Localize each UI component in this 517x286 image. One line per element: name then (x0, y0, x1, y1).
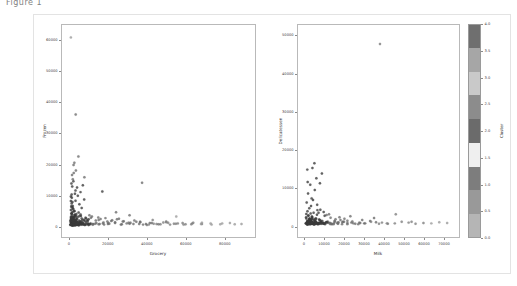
y-tick-mark (59, 227, 61, 228)
x-tick-mark (384, 238, 385, 240)
scatter-plot-left[interactable]: 020000400006000080000 010000200003000040… (61, 24, 256, 238)
figure-canvas: 020000400006000080000 010000200003000040… (33, 14, 511, 274)
y-tick-mark (59, 196, 61, 197)
colorbar-tick-label: 0.5 (485, 209, 491, 213)
x-tick-label: 20000 (338, 242, 349, 246)
x-tick-mark (404, 238, 405, 240)
y-tick-mark (59, 133, 61, 134)
data-points-right (298, 25, 459, 237)
y-tick-mark (59, 102, 61, 103)
colorbar-title: Cluster (499, 124, 504, 138)
colorbar-tick-label: 4.0 (485, 22, 491, 26)
y-tick-mark (295, 150, 297, 151)
colorbar-tick-mark (481, 104, 483, 105)
y-axis-title-right: Delicatessen (278, 118, 283, 145)
x-tick-label: 10000 (318, 242, 329, 246)
colorbar-tick-label: 3.0 (485, 76, 491, 80)
y-axis-title-left: Frozen (42, 124, 47, 138)
scatter-plot-right[interactable]: 010000200003000040000500006000070000 010… (297, 24, 460, 238)
page-title: Figure 1 (6, 0, 42, 7)
x-tick-label: 40000 (378, 242, 389, 246)
x-tick-mark (304, 238, 305, 240)
colorbar-tick-mark (481, 24, 483, 25)
x-tick-label: 40000 (141, 242, 152, 246)
x-tick-label: 60000 (180, 242, 191, 246)
x-tick-label: 70000 (438, 242, 449, 246)
colorbar-tick-mark (481, 185, 483, 186)
y-tick-label: 50000 (46, 69, 57, 73)
x-tick-mark (147, 238, 148, 240)
x-tick-mark (69, 238, 70, 240)
x-tick-label: 0 (68, 242, 70, 246)
y-tick-mark (59, 71, 61, 72)
y-tick-label: 10000 (46, 194, 57, 198)
y-tick-mark (295, 74, 297, 75)
x-tick-label: 20000 (102, 242, 113, 246)
plot-area-right (297, 24, 460, 238)
y-tick-label: 30000 (282, 110, 293, 114)
x-tick-mark (225, 238, 226, 240)
colorbar-tick-label: 1.0 (485, 183, 491, 187)
y-tick-label: 0 (55, 225, 57, 229)
colorbar-tick-mark (481, 238, 483, 239)
colorbar-tick-label: 3.5 (485, 49, 491, 53)
colorbar-tick-mark (481, 78, 483, 79)
x-axis-title-left: Grocery (150, 251, 167, 256)
y-tick-mark (59, 40, 61, 41)
y-tick-label: 30000 (46, 131, 57, 135)
x-axis-title-right: Milk (374, 251, 382, 256)
colorbar-tick-mark (481, 211, 483, 212)
x-tick-label: 50000 (398, 242, 409, 246)
x-tick-mark (324, 238, 325, 240)
y-tick-label: 50000 (282, 33, 293, 37)
y-tick-mark (295, 112, 297, 113)
y-tick-mark (59, 165, 61, 166)
y-tick-label: 20000 (46, 163, 57, 167)
plot-area-left (61, 24, 256, 238)
x-tick-label: 60000 (418, 242, 429, 246)
data-points-left (62, 25, 255, 237)
y-tick-mark (295, 35, 297, 36)
x-tick-mark (424, 238, 425, 240)
y-tick-label: 0 (291, 225, 293, 229)
y-tick-mark (295, 188, 297, 189)
x-tick-mark (364, 238, 365, 240)
x-tick-mark (108, 238, 109, 240)
colorbar[interactable]: 0.00.51.01.52.02.53.03.54.0 Cluster (468, 24, 481, 238)
x-tick-mark (444, 238, 445, 240)
colorbar-tick-label: 2.5 (485, 102, 491, 106)
y-tick-label: 40000 (282, 72, 293, 76)
y-tick-label: 10000 (282, 186, 293, 190)
y-tick-mark (295, 227, 297, 228)
x-tick-label: 80000 (219, 242, 230, 246)
colorbar-tick-label: 1.5 (485, 156, 491, 160)
colorbar-tick-mark (481, 131, 483, 132)
y-tick-label: 40000 (46, 100, 57, 104)
colorbar-tick-mark (481, 158, 483, 159)
x-tick-mark (186, 238, 187, 240)
figure-root: Figure 1 020000400006000080000 010000200… (0, 0, 517, 286)
colorbar-frame (468, 24, 481, 238)
colorbar-tick-label: 0.0 (485, 236, 491, 240)
x-tick-label: 0 (303, 242, 305, 246)
colorbar-tick-label: 2.0 (485, 129, 491, 133)
y-tick-label: 60000 (46, 38, 57, 42)
x-tick-mark (344, 238, 345, 240)
y-tick-label: 20000 (282, 148, 293, 152)
colorbar-tick-mark (481, 51, 483, 52)
x-tick-label: 30000 (358, 242, 369, 246)
